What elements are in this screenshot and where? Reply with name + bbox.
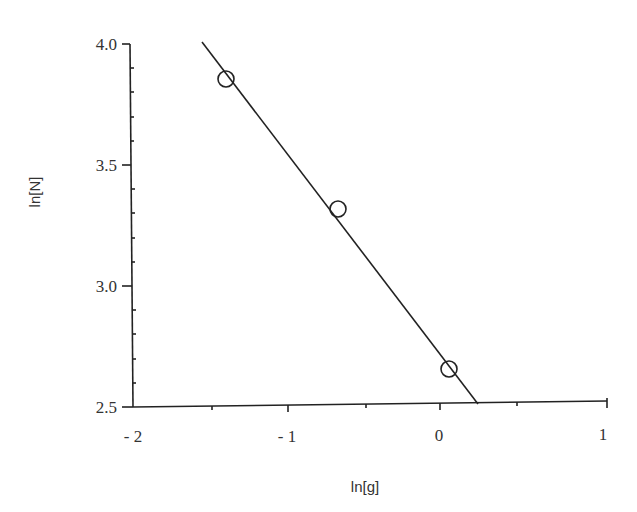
x-tick-label: 0 xyxy=(435,426,444,445)
x-axis xyxy=(133,398,607,412)
y-tick-label: 3.0 xyxy=(96,277,117,296)
y-tick-label: 3.5 xyxy=(96,156,117,175)
data-point xyxy=(330,201,346,217)
y-axis xyxy=(122,44,136,407)
y-tick-label: 4.0 xyxy=(96,35,117,54)
x-axis-label: ln[g] xyxy=(351,478,379,495)
chart: 4.0 3.5 3.0 2.5 - 2 - 1 0 1 ln[g] ln[N] xyxy=(0,0,637,512)
x-tick-label: 1 xyxy=(599,425,608,444)
fit-line xyxy=(202,42,478,404)
x-tick-label: - 2 xyxy=(124,427,142,446)
y-tick-label: 2.5 xyxy=(96,398,117,417)
x-tick-label: - 1 xyxy=(278,427,296,446)
data-point xyxy=(441,361,457,377)
y-axis-label: ln[N] xyxy=(26,177,43,208)
data-points xyxy=(218,71,457,377)
